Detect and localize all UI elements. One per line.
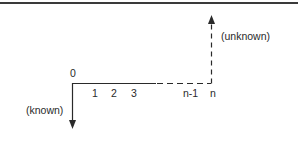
period-label-2: 2 xyxy=(111,87,117,99)
arrow-up-icon xyxy=(208,15,215,24)
period-label-n-minus-1: n-1 xyxy=(183,87,198,99)
period-label-3: 3 xyxy=(131,87,137,99)
origin-label: 0 xyxy=(70,67,76,79)
period-label-1: 1 xyxy=(92,87,98,99)
period-label-n: n xyxy=(210,87,216,99)
cash-flow-diagram xyxy=(0,0,298,141)
known-label: (known) xyxy=(26,104,63,116)
unknown-label: (unknown) xyxy=(221,30,270,42)
arrow-down-icon xyxy=(69,120,76,129)
